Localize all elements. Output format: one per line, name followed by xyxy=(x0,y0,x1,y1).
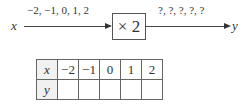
operation-box: × 2 xyxy=(112,13,146,40)
input-values-label: −2, −1, 0, 1, 2 xyxy=(27,4,89,16)
table-row-x: x −2 −1 0 1 2 xyxy=(37,60,163,80)
table-cell xyxy=(58,80,79,100)
table-cell: 2 xyxy=(142,60,163,80)
output-variable: y xyxy=(232,18,238,34)
table-cell: 0 xyxy=(100,60,121,80)
row-header-y: y xyxy=(37,80,58,100)
operation-label: × 2 xyxy=(118,17,140,37)
output-arrow-line xyxy=(146,26,226,27)
output-values-label: ?, ?, ?, ?, ? xyxy=(158,4,204,16)
row-header-x: x xyxy=(37,60,58,80)
table-cell xyxy=(79,80,100,100)
values-table: x −2 −1 0 1 2 y xyxy=(36,59,163,100)
table-row-y: y xyxy=(37,80,163,100)
input-arrowhead-icon xyxy=(105,23,112,29)
output-arrowhead-icon xyxy=(224,23,231,29)
table-cell: −2 xyxy=(58,60,79,80)
table-cell xyxy=(121,80,142,100)
table-cell xyxy=(100,80,121,100)
input-arrow-line xyxy=(24,26,106,27)
table-cell xyxy=(142,80,163,100)
table-cell: −1 xyxy=(79,60,100,80)
input-variable: x xyxy=(11,18,17,34)
table-cell: 1 xyxy=(121,60,142,80)
